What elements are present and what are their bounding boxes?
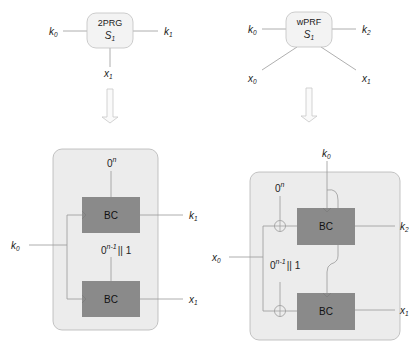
label-x1: x1 — [361, 73, 371, 85]
label-x1-out: x1 — [188, 294, 198, 306]
label-k1-out: k1 — [189, 210, 198, 222]
down-arrow-icon — [301, 88, 317, 122]
label-x1: x1 — [103, 68, 113, 80]
bc-label: BC — [319, 221, 333, 232]
label-k0-in: k0 — [322, 148, 331, 160]
wprf-box-title: wPRF — [296, 17, 322, 27]
bc-label: BC — [104, 294, 118, 305]
label-x0: x0 — [247, 73, 257, 85]
diagram-canvas: 2PRG S1 k0 k1 x1 0n BC k1 k0 0n-1|| 1 BC… — [0, 0, 419, 353]
right-wprf-top: wPRF S1 k0 k2 x0 x1 — [247, 12, 371, 85]
bc-label: BC — [319, 306, 333, 317]
label-k0: k0 — [248, 24, 257, 36]
label-x0-in: x0 — [211, 252, 221, 264]
xor-icon — [275, 306, 286, 317]
bc-label: BC — [104, 210, 118, 221]
label-k0: k0 — [49, 26, 58, 38]
xor-icon — [275, 221, 286, 232]
label-k2-out: k2 — [400, 221, 409, 233]
prg-box-title: 2PRG — [98, 18, 123, 28]
left-2prg-top: 2PRG S1 k0 k1 x1 — [49, 13, 173, 80]
left-bc-panel: 0n BC k1 k0 0n-1|| 1 BC x1 — [11, 149, 198, 330]
right-bc-panel: k0 BC k2 0n x0 0n-1|| 1 — [211, 148, 409, 340]
label-k2: k2 — [362, 24, 371, 36]
label-k0-in: k0 — [11, 240, 20, 252]
label-k1: k1 — [164, 26, 173, 38]
down-arrow-icon — [102, 89, 118, 123]
label-x1-out: x1 — [399, 305, 409, 317]
